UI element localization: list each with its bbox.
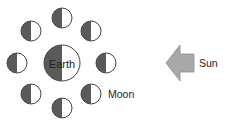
- sun-label: Sun: [199, 57, 218, 69]
- moon-top-left: [21, 21, 41, 41]
- moon-label: Moon: [108, 88, 134, 100]
- moon-right: [96, 53, 116, 73]
- moon-phases-diagram: Earth Moon: [0, 0, 229, 125]
- moon-bottom-right: [81, 84, 101, 104]
- sunlight-arrow-icon: [166, 45, 194, 81]
- earth-label: Earth: [49, 58, 75, 70]
- moon-bottom-left: [21, 84, 41, 104]
- moon-top: [52, 8, 72, 28]
- moon-left: [7, 53, 27, 73]
- moon-bottom: [52, 98, 72, 118]
- moon-top-right: [81, 21, 101, 41]
- earth: Earth: [44, 45, 80, 81]
